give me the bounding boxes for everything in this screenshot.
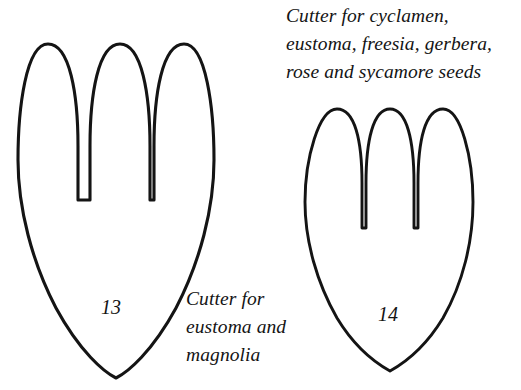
cutter-shape-14 <box>305 109 473 371</box>
caption-cutter-eustoma: Cutter for eustoma and magnolia <box>186 285 310 369</box>
cutter-shape-13 <box>18 44 214 378</box>
figure-number-14: 14 <box>378 303 398 326</box>
cutter-shape-13-outline <box>18 44 214 378</box>
caption-cutter-cyclamen: Cutter for cyclamen, eustoma, freesia, g… <box>286 2 520 86</box>
figure-number-13: 13 <box>101 296 121 319</box>
cutter-shape-14-outline <box>305 109 473 371</box>
